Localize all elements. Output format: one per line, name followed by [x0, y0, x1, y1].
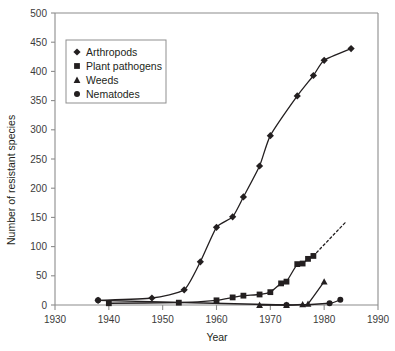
legend-marker-circle: [74, 91, 80, 97]
chart-background: [0, 0, 395, 351]
y-tick-label: 350: [30, 95, 47, 106]
data-point-marker: [95, 297, 101, 303]
y-tick-label: 250: [30, 154, 47, 165]
legend-label: Arthropods: [86, 46, 137, 58]
data-point-marker: [327, 300, 333, 306]
y-tick-label: 150: [30, 212, 47, 223]
resistant-species-line-chart: 050100150200250300350400450500 193019401…: [0, 0, 395, 351]
legend-label: Nematodes: [86, 88, 140, 100]
data-point-marker: [230, 295, 236, 301]
x-tick-label: 1960: [205, 314, 228, 325]
x-tick-label: 1990: [367, 314, 390, 325]
y-tick-label: 500: [30, 8, 47, 19]
legend-label: Plant pathogens: [86, 60, 162, 72]
y-tick-label: 200: [30, 183, 47, 194]
y-tick-label: 50: [36, 270, 48, 281]
x-tick-label: 1930: [44, 314, 67, 325]
data-point-marker: [214, 297, 220, 303]
y-tick-label: 450: [30, 37, 47, 48]
data-point-marker: [241, 293, 247, 299]
x-tick-label: 1950: [152, 314, 175, 325]
data-point-marker: [300, 261, 306, 267]
x-tick-label: 1970: [259, 314, 282, 325]
y-tick-label: 100: [30, 241, 47, 252]
data-point-marker: [284, 279, 290, 285]
y-tick-label: 0: [41, 300, 47, 311]
x-axis-title: Year: [206, 331, 228, 343]
data-point-marker: [305, 256, 311, 262]
data-point-marker: [283, 302, 289, 308]
legend-marker-square: [74, 63, 80, 69]
x-tick-label: 1940: [98, 314, 121, 325]
chart-legend: ArthropodsPlant pathogensWeedsNematodes: [66, 40, 166, 103]
y-tick-label: 300: [30, 124, 47, 135]
y-tick-label: 400: [30, 66, 47, 77]
data-point-marker: [278, 280, 284, 286]
x-tick-label: 1980: [313, 314, 336, 325]
legend-label: Weeds: [86, 74, 119, 86]
chart-container: 050100150200250300350400450500 193019401…: [0, 0, 395, 351]
data-point-marker: [337, 297, 343, 303]
data-point-marker: [311, 253, 317, 259]
data-point-marker: [267, 289, 273, 295]
y-axis-title: Number of resistant species: [5, 115, 17, 245]
data-point-marker: [294, 261, 300, 267]
data-point-marker: [257, 292, 263, 298]
